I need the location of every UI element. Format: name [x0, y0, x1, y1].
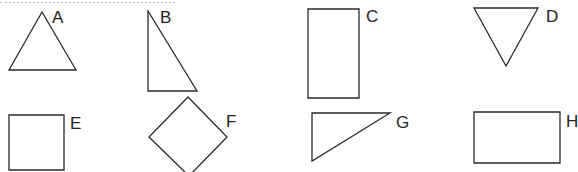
label-f: F: [226, 113, 236, 130]
label-h: H: [566, 113, 578, 130]
rectangle-h: [474, 112, 560, 163]
label-a: A: [52, 9, 63, 26]
rectangle-c: [308, 9, 359, 98]
right-triangle-g: [312, 113, 390, 161]
cutoff-top-text: [0, 0, 578, 3]
label-b: B: [160, 9, 171, 26]
right-triangle-b: [148, 11, 197, 91]
label-d: D: [546, 8, 558, 25]
inverted-triangle-d: [474, 8, 538, 66]
triangle-a: [9, 12, 76, 70]
shapes-canvas: [0, 0, 578, 172]
square-e: [9, 115, 64, 170]
diamond-f: [149, 97, 227, 172]
label-e: E: [70, 115, 81, 132]
label-c: C: [366, 8, 378, 25]
label-g: G: [396, 114, 409, 131]
cutoff-text-fragment: [0, 0, 175, 3]
